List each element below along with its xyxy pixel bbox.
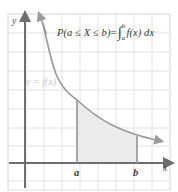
formula-equals: = [111,27,117,38]
probability-formula: P(a ≤ X ≤ b)=∫baf(x) dx [57,24,154,41]
probability-density-figure: y x y = f(x) a b P(a ≤ X ≤ b)=∫baf(x) dx [0,0,178,192]
formula-probability-part: P(a ≤ X ≤ b) [57,27,111,38]
integral-limits: ba [122,26,126,41]
integral-upper-limit: b [122,23,126,30]
y-axis-label: y [12,17,16,27]
x-axis-label: x [163,164,167,174]
integral-lower-limit: a [122,35,126,42]
function-label: y = f(x) [26,77,56,87]
formula-integrand: f(x) dx [126,27,154,38]
upper-bound-label: b [133,168,138,179]
lower-bound-label: a [74,168,79,179]
